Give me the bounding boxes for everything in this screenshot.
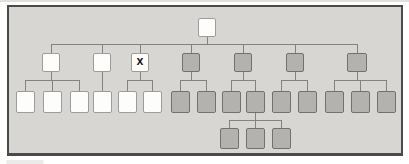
connector-line (386, 80, 387, 91)
connector-line (255, 113, 256, 120)
tree-node-g4-1 (220, 128, 239, 149)
tree-node-g2-c-marked: X (131, 53, 149, 72)
connector-line (102, 80, 103, 91)
connector-line (206, 80, 207, 91)
connector-line (127, 80, 128, 91)
connector-line (25, 80, 26, 91)
connector-line (52, 80, 53, 91)
tree-node-g3-b1 (93, 91, 112, 113)
connector-line (140, 44, 141, 53)
connector-line (360, 80, 361, 91)
tree-node-g3-a2 (43, 91, 62, 113)
connector-line (102, 44, 103, 53)
tree-node-g3-g3 (377, 91, 396, 113)
scan-artifact-top (0, 0, 409, 2)
tree-node-root (198, 18, 216, 37)
tree-node-g3-d2 (197, 91, 216, 113)
connector-line (334, 80, 335, 91)
connector-line (281, 80, 308, 81)
connector-line (295, 72, 296, 80)
connector-line (281, 120, 282, 128)
connector-line (140, 72, 141, 80)
connector-line (231, 80, 256, 81)
connector-line (207, 37, 208, 44)
connector-line (243, 44, 244, 53)
connector-line (255, 120, 256, 128)
connector-line (229, 120, 230, 128)
connector-line (51, 44, 52, 53)
connector-line (357, 72, 358, 80)
lineage-tree-diagram: X (0, 0, 409, 164)
connector-line (191, 72, 192, 80)
tree-node-g3-e1 (222, 91, 241, 113)
connector-line (79, 80, 80, 91)
tree-node-g3-g1 (325, 91, 344, 113)
tree-node-g2-f (286, 53, 304, 72)
tree-node-g3-d1 (171, 91, 190, 113)
scan-artifact-bottom (6, 160, 44, 164)
connector-line (152, 80, 153, 91)
connector-line (191, 44, 192, 53)
tree-node-g2-d (182, 53, 200, 72)
tree-node-g2-a (42, 53, 60, 72)
connector-line (281, 80, 282, 91)
connector-line (255, 80, 256, 91)
connector-line (357, 44, 358, 53)
extinct-mark-label: X (137, 58, 144, 67)
connector-line (180, 80, 181, 91)
connector-line (51, 44, 358, 45)
connector-line (51, 72, 52, 80)
tree-node-g3-c2 (143, 91, 162, 113)
tree-node-g4-3 (272, 128, 291, 149)
tree-node-g2-g (347, 53, 367, 72)
connector-line (231, 80, 232, 91)
connector-line (127, 80, 153, 81)
tree-node-g4-2 (246, 128, 265, 149)
tree-node-g3-a1 (16, 91, 35, 113)
connector-line (180, 80, 207, 81)
tree-node-g3-f2 (298, 91, 317, 113)
connector-line (243, 72, 244, 80)
tree-node-g3-a3 (70, 91, 89, 113)
tree-node-g3-g2 (351, 91, 370, 113)
connector-line (295, 44, 296, 53)
tree-node-g2-b (93, 53, 111, 72)
tree-node-g2-e (234, 53, 252, 72)
connector-line (307, 80, 308, 91)
tree-node-g3-c1 (118, 91, 137, 113)
tree-node-g3-f1 (272, 91, 291, 113)
connector-line (102, 72, 103, 80)
tree-node-g3-e2 (246, 91, 265, 113)
